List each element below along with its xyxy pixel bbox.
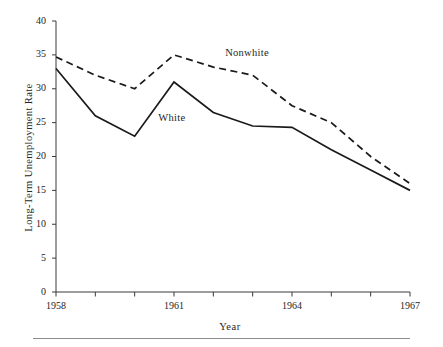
x-tick-label: 1958 <box>34 300 78 311</box>
series-group <box>56 55 410 191</box>
x-tick-label: 1961 <box>152 300 196 311</box>
axes-group <box>52 21 410 297</box>
series-label-white: White <box>158 112 185 123</box>
line-chart-plot <box>0 0 443 347</box>
series-line-white <box>56 68 410 190</box>
series-label-nonwhite: Nonwhite <box>225 47 269 58</box>
x-axis-title: Year <box>180 321 280 332</box>
y-axis-ticks <box>52 21 56 292</box>
footer-divider <box>33 338 410 339</box>
x-tick-label: 1964 <box>270 300 314 311</box>
y-tick-label: 0 <box>20 286 46 297</box>
y-axis-title: Long-Term Unemployment Rate <box>23 48 34 268</box>
x-axis-ticks <box>56 292 410 297</box>
chart-figure: 0510152025303540 1958196119641967 Long-T… <box>0 0 443 347</box>
y-tick-label: 40 <box>20 15 46 26</box>
x-tick-label: 1967 <box>388 300 432 311</box>
